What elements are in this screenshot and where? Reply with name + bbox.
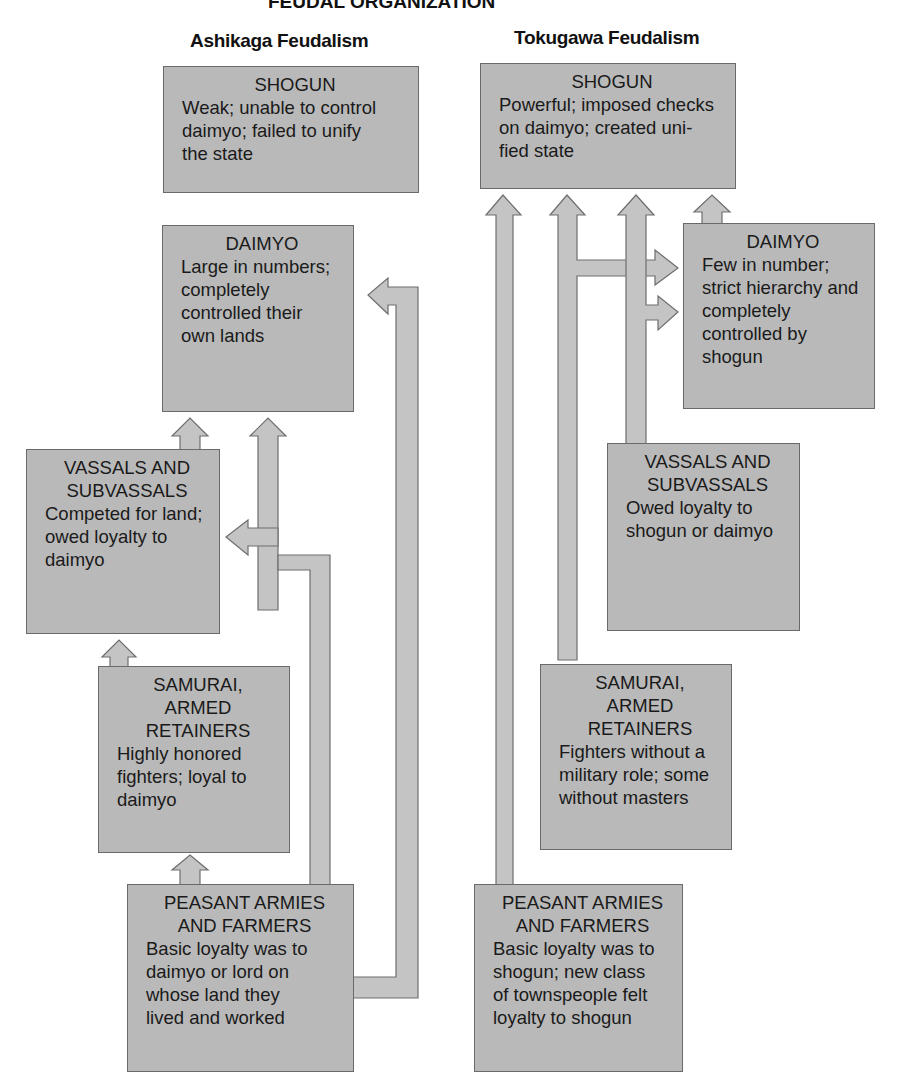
ashikaga-vassals-box: VASSALS AND SUBVASSALS Competed for land… xyxy=(26,449,220,634)
arrow-vassals-to-shogun xyxy=(618,195,678,444)
box-heading: RETAINERS xyxy=(559,717,721,740)
ashikaga-daimyo-box: DAIMYO Large in numbers; completely cont… xyxy=(162,225,354,412)
box-heading: AND FARMERS xyxy=(146,914,343,937)
box-description-line: completely xyxy=(181,278,343,301)
box-heading: SUBVASSALS xyxy=(626,473,789,496)
box-description-line: daimyo or lord on xyxy=(146,960,343,983)
box-description-line: controlled by xyxy=(702,322,864,345)
tokugawa-shogun-box: SHOGUN Powerful; imposed checks on daimy… xyxy=(480,63,736,189)
arrow-peasants-to-shogun xyxy=(486,195,521,885)
arrow-vassals-to-daimyo xyxy=(172,418,208,450)
box-description-line: Large in numbers; xyxy=(181,255,343,278)
ashikaga-peasants-box: PEASANT ARMIES AND FARMERS Basic loyalty… xyxy=(127,884,354,1072)
box-heading: DAIMYO xyxy=(181,232,343,255)
tokugawa-samurai-box: SAMURAI, ARMED RETAINERS Fighters withou… xyxy=(540,664,732,850)
box-description-line: lived and worked xyxy=(146,1006,343,1029)
box-heading: SAMURAI, xyxy=(559,671,721,694)
box-description-line: own lands xyxy=(181,324,343,347)
box-heading: SUBVASSALS xyxy=(45,479,209,502)
box-description-line: Powerful; imposed checks xyxy=(499,93,725,116)
box-description-line: Few in number; xyxy=(702,253,864,276)
box-heading: SAMURAI, xyxy=(117,673,279,696)
tokugawa-vassals-box: VASSALS AND SUBVASSALS Owed loyalty to s… xyxy=(607,443,800,631)
box-description-line: owed loyalty to xyxy=(45,525,209,548)
box-description-line: daimyo xyxy=(45,548,209,571)
box-description-line: without masters xyxy=(559,786,721,809)
ashikaga-samurai-box: SAMURAI, ARMED RETAINERS Highly honored … xyxy=(98,666,290,853)
box-heading: SHOGUN xyxy=(499,70,725,93)
box-description-line: military role; some xyxy=(559,763,721,786)
box-heading: PEASANT ARMIES xyxy=(146,891,343,914)
box-description-line: completely xyxy=(702,299,864,322)
box-heading: AND FARMERS xyxy=(493,914,672,937)
box-description-line: whose land they xyxy=(146,983,343,1006)
tokugawa-daimyo-box: DAIMYO Few in number; strict hierarchy a… xyxy=(683,223,875,409)
box-description-line: Basic loyalty was to xyxy=(146,937,343,960)
box-description-line: daimyo; failed to unify xyxy=(182,119,408,142)
arrow-daimyo-to-shogun xyxy=(694,195,730,225)
box-heading: VASSALS AND xyxy=(626,450,789,473)
box-heading: SHOGUN xyxy=(182,73,408,96)
box-heading: DAIMYO xyxy=(702,230,864,253)
box-heading: ARMED xyxy=(117,696,279,719)
box-description-line: on daimyo; created uni- xyxy=(499,116,725,139)
tokugawa-peasants-box: PEASANT ARMIES AND FARMERS Basic loyalty… xyxy=(474,884,683,1072)
box-description-line: Weak; unable to control xyxy=(182,96,408,119)
arrow-samurai-to-daimyo xyxy=(250,418,286,610)
box-heading: RETAINERS xyxy=(117,719,279,742)
box-description-line: daimyo xyxy=(117,788,279,811)
box-description-line: strict hierarchy and xyxy=(702,276,864,299)
box-description-line: of townspeople felt xyxy=(493,983,672,1006)
box-description-line: Basic loyalty was to xyxy=(493,937,672,960)
arrow-peasants-to-daimyo xyxy=(352,278,418,998)
box-description-line: fied state xyxy=(499,139,725,162)
box-description-line: shogun xyxy=(702,345,864,368)
box-description-line: Fighters without a xyxy=(559,740,721,763)
box-description-line: Owed loyalty to xyxy=(626,496,789,519)
ashikaga-shogun-box: SHOGUN Weak; unable to control daimyo; f… xyxy=(163,66,419,193)
box-description-line: shogun; new class xyxy=(493,960,672,983)
box-description-line: shogun or daimyo xyxy=(626,519,789,542)
box-heading: VASSALS AND xyxy=(45,456,209,479)
box-heading: PEASANT ARMIES xyxy=(493,891,672,914)
box-heading: ARMED xyxy=(559,694,721,717)
box-description-line: controlled their xyxy=(181,301,343,324)
box-description-line: Highly honored xyxy=(117,742,279,765)
box-description-line: Competed for land; xyxy=(45,502,209,525)
box-description-line: fighters; loyal to xyxy=(117,765,279,788)
arrow-peasants-to-samurai xyxy=(172,855,208,885)
box-description-line: loyalty to shogun xyxy=(493,1006,672,1029)
box-description-line: the state xyxy=(182,142,408,165)
